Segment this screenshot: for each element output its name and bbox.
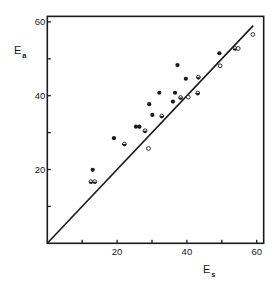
filled-point	[217, 51, 221, 55]
scatter-chart: 204060204060 Ea Es	[0, 0, 278, 288]
y-tick-label: 60	[35, 16, 46, 27]
x-tick-label: 20	[112, 246, 123, 257]
half-filled-point	[196, 91, 200, 95]
filled-point	[150, 113, 154, 117]
filled-point	[91, 168, 95, 172]
open-point	[251, 33, 255, 37]
filled-point	[157, 91, 161, 95]
half-filled-point	[123, 142, 127, 146]
half-filled-point	[197, 75, 201, 79]
y-tick-label: 20	[35, 164, 46, 175]
half-filled-point	[179, 96, 183, 100]
open-point	[186, 95, 190, 99]
half-filled-point	[143, 129, 147, 133]
data-points	[89, 33, 255, 184]
y-tick-label: 40	[35, 90, 46, 101]
identity-line	[47, 26, 253, 244]
filled-point	[171, 100, 175, 104]
y-axis-label: Ea	[14, 44, 27, 60]
filled-point	[184, 77, 188, 81]
filled-point	[112, 136, 116, 140]
open-point	[236, 47, 240, 51]
open-point	[147, 147, 151, 151]
half-filled-point	[89, 180, 93, 184]
identity-line	[47, 26, 253, 244]
filled-point	[173, 91, 177, 95]
half-filled-point	[160, 114, 164, 118]
half-filled-point	[93, 180, 97, 184]
filled-point	[147, 102, 151, 106]
filled-point	[137, 125, 141, 129]
x-tick-label: 60	[251, 246, 262, 257]
x-axis-label: Es	[203, 263, 216, 279]
x-tick-label: 40	[182, 246, 193, 257]
open-point	[218, 64, 222, 68]
filled-point	[175, 63, 179, 67]
